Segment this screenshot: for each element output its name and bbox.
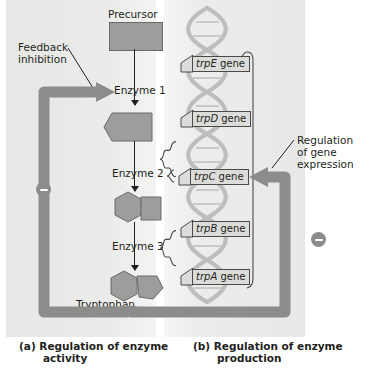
gene-regulation-arrow [0, 0, 369, 374]
caption-a-line1: (a) Regulation of enzyme [19, 340, 168, 353]
figure-tryptophan-regulation: Precursor Enzyme 1 Enzyme 2 Enzyme 3 Try… [0, 0, 369, 374]
minus-circle-icon-right [311, 232, 326, 247]
caption-b-line1: (b) Regulation of enzyme [193, 340, 343, 353]
caption-a-line2: activity [43, 352, 87, 365]
caption-b-line2: production [217, 352, 281, 365]
